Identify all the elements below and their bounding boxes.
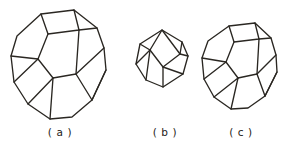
caption-a: ( a ) bbox=[32, 126, 88, 138]
caption-c: ( c ) bbox=[218, 126, 264, 138]
polyhedron-c-edge-top-right bbox=[259, 38, 271, 39]
polyhedron-a-edge-top-right bbox=[79, 28, 97, 30]
polyhedron-b-edge-upper-right bbox=[180, 42, 182, 54]
polyhedron-a-edge-left-upper bbox=[11, 56, 38, 59]
polyhedron-a-edge-bottom-right bbox=[76, 74, 92, 100]
polyhedron-c-edge-bottom-right bbox=[257, 74, 265, 96]
polyhedron-c-edge-right bbox=[257, 55, 276, 74]
polyhedron-c-edge-right-lower bbox=[265, 72, 277, 96]
polyhedron-b bbox=[136, 30, 188, 87]
polyhedron-b-edge-lower-left bbox=[146, 50, 150, 80]
polyhedron-a-outline bbox=[11, 10, 106, 119]
polyhedron-a-square-center bbox=[38, 30, 79, 78]
polyhedron-c bbox=[202, 23, 277, 109]
polyhedron-c-square-center bbox=[226, 39, 259, 78]
polyhedron-c-edge-left-lower bbox=[204, 62, 226, 79]
polyhedron-b-edge-lower-right bbox=[163, 67, 183, 74]
polyhedron-a-edge-right-lower bbox=[92, 70, 106, 100]
figure-page: ( a ) ( b ) ( c ) bbox=[0, 0, 283, 148]
polyhedron-b-edge-upper-left bbox=[140, 44, 150, 50]
polyhedron-a-edge-bottom-left bbox=[28, 78, 53, 104]
polyhedron-a bbox=[11, 10, 106, 119]
polyhedron-b-outline bbox=[136, 30, 188, 87]
polyhedron-a-edge-right bbox=[76, 48, 104, 74]
caption-b: ( b ) bbox=[142, 126, 188, 138]
polyhedron-a-edge-bottom bbox=[50, 78, 53, 119]
polyhedron-a-edge-left-lower bbox=[14, 59, 38, 82]
polyhedron-c-edge-left-upper bbox=[202, 58, 226, 62]
